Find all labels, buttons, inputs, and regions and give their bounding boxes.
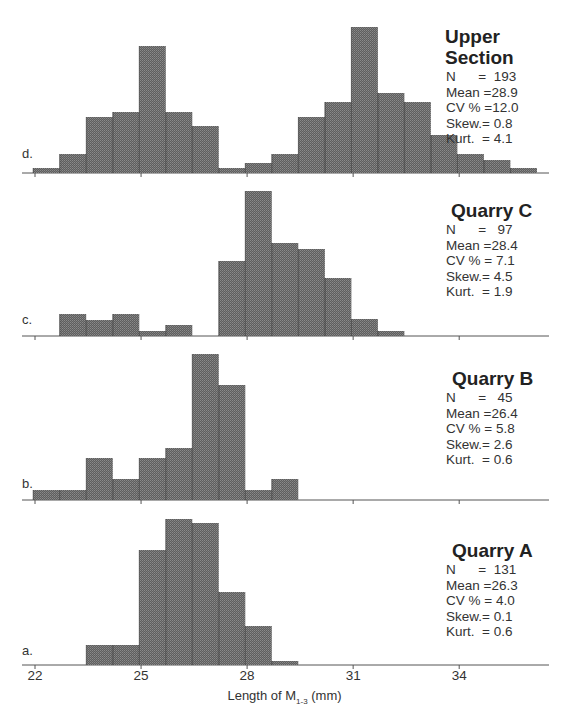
x-tick-label: 31 xyxy=(346,668,361,683)
panel-stats-b: N = 45Mean =26.4CV % = 5.8Skew.= 2.6Kurt… xyxy=(446,390,518,468)
histogram-bar xyxy=(351,27,378,173)
panel-stats-c: N = 97Mean =28.4CV % = 7.1Skew.= 4.5Kurt… xyxy=(446,222,518,300)
histogram-bar xyxy=(113,112,140,173)
histogram-bar xyxy=(113,479,140,500)
stat-cv: CV % = 7.1 xyxy=(446,253,518,269)
panel-letter-d: d. xyxy=(22,146,33,161)
histogram-bar xyxy=(192,523,219,665)
panel-title-c: Quarry C xyxy=(451,200,532,221)
histogram-bar xyxy=(219,168,246,173)
histogram-bar xyxy=(272,154,299,173)
stat-mean: Mean =26.3 xyxy=(446,578,518,594)
histogram-bar xyxy=(166,448,193,500)
histogram-bar xyxy=(378,331,405,336)
histogram-bar xyxy=(511,168,538,173)
histogram-bar xyxy=(166,519,193,665)
stat-kurt: Kurt. = 4.1 xyxy=(446,131,518,147)
histogram-bar xyxy=(245,191,271,336)
stat-mean: Mean =28.4 xyxy=(446,238,518,254)
histogram-bar xyxy=(404,102,431,173)
histogram-bar xyxy=(33,168,60,173)
histogram-bar xyxy=(86,117,113,173)
histogram-bar xyxy=(192,354,219,500)
histogram-bar xyxy=(219,385,246,500)
histogram-bar xyxy=(325,102,352,173)
histogram-bar xyxy=(351,319,378,336)
x-tick-label: 34 xyxy=(452,668,467,683)
panel-title-a: Quarry A xyxy=(452,540,533,561)
stat-mean: Mean =26.4 xyxy=(446,406,518,422)
histogram-bar xyxy=(139,550,166,665)
histogram-bar xyxy=(113,314,140,336)
stat-n: N = 97 xyxy=(446,222,518,238)
histogram-bar xyxy=(139,331,166,336)
histogram-bar xyxy=(298,249,325,336)
panel-letter-c: c. xyxy=(22,312,32,327)
stat-cv: CV % = 5.8 xyxy=(446,421,518,437)
histogram-bar xyxy=(219,261,246,336)
histogram-bar xyxy=(272,243,299,336)
histogram-bar xyxy=(33,490,60,500)
histogram-bar xyxy=(113,645,140,665)
histogram-bar xyxy=(378,93,405,173)
panel-title-line: Quarry B xyxy=(452,368,533,389)
histogram-bar xyxy=(139,46,166,173)
histogram-bar xyxy=(245,490,271,500)
stat-skew: Skew.= 0.1 xyxy=(446,609,518,625)
histogram-bar xyxy=(484,160,511,173)
stat-skew: Skew.= 4.5 xyxy=(446,269,518,285)
panel-stats-a: N = 131Mean =26.3CV % = 4.0Skew.= 0.1Kur… xyxy=(446,562,518,640)
panel-stats-d: N = 193Mean =28.9CV % =12.0Skew.= 0.8Kur… xyxy=(446,69,518,147)
stat-cv: CV % = 4.0 xyxy=(446,593,518,609)
histogram-bar xyxy=(298,117,325,173)
histogram-bar xyxy=(219,592,246,665)
histogram-bar xyxy=(166,325,193,336)
histogram-bar xyxy=(166,112,193,173)
histogram-bar xyxy=(192,126,219,173)
panel-title-line: Quarry A xyxy=(452,540,533,561)
stat-n: N = 131 xyxy=(446,562,518,578)
x-tick-label: 22 xyxy=(27,668,42,683)
panel-title-line: Upper xyxy=(445,26,514,47)
histogram-bar xyxy=(272,661,299,665)
histogram-bar xyxy=(86,458,113,500)
x-tick-label: 25 xyxy=(134,668,149,683)
histogram-bar xyxy=(245,626,271,665)
stat-skew: Skew.= 2.6 xyxy=(446,437,518,453)
panel-letter-b: b. xyxy=(22,476,33,491)
stat-n: N = 45 xyxy=(446,390,518,406)
panel-title-d: UpperSection xyxy=(445,26,514,68)
x-axis-label: Length of M1-3 (mm) xyxy=(0,688,569,706)
histogram-bar xyxy=(272,479,299,500)
panel-title-line: Quarry C xyxy=(451,200,532,221)
panel-letter-a: a. xyxy=(22,643,33,658)
histogram-bar xyxy=(60,154,86,173)
panel-title-line: Section xyxy=(445,47,514,68)
x-tick-label: 28 xyxy=(240,668,255,683)
histogram-bar xyxy=(86,645,113,665)
panel-title-b: Quarry B xyxy=(452,368,533,389)
histogram-bar xyxy=(325,278,352,336)
stat-kurt: Kurt. = 0.6 xyxy=(446,624,518,640)
histogram-bar xyxy=(457,154,484,173)
stat-skew: Skew.= 0.8 xyxy=(446,116,518,132)
stat-n: N = 193 xyxy=(446,69,518,85)
stat-kurt: Kurt. = 1.9 xyxy=(446,284,518,300)
stat-kurt: Kurt. = 0.6 xyxy=(446,452,518,468)
histogram-bar xyxy=(60,490,86,500)
stat-cv: CV % =12.0 xyxy=(446,100,518,116)
histogram-bar xyxy=(245,163,271,173)
histogram-bar xyxy=(60,314,86,336)
histogram-bar xyxy=(86,320,113,336)
histogram-bar xyxy=(139,458,166,500)
stat-mean: Mean =28.9 xyxy=(446,85,518,101)
